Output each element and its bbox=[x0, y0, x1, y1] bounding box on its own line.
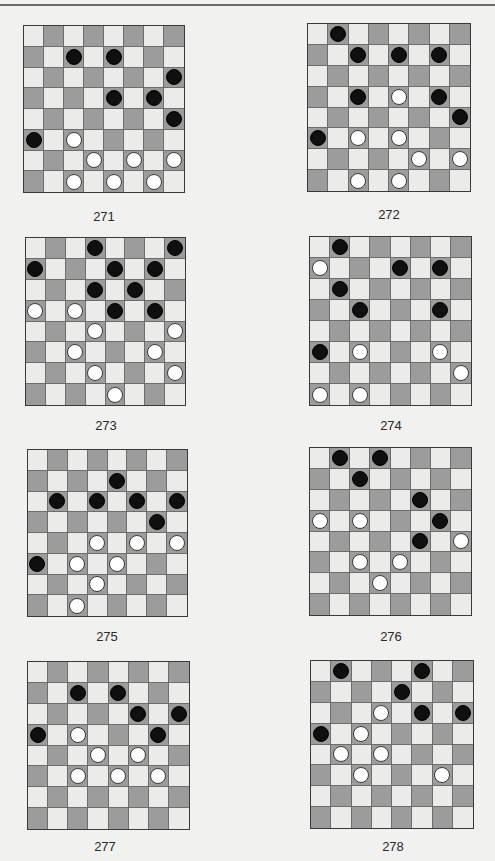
board-square-r4c0[interactable] bbox=[310, 321, 330, 342]
board-square-r0c6[interactable] bbox=[431, 448, 451, 469]
board-square-r6c5[interactable] bbox=[411, 573, 431, 594]
board-square-r6c3[interactable] bbox=[370, 573, 390, 594]
board-square-r7c7[interactable] bbox=[451, 594, 471, 615]
board-square-r7c7[interactable] bbox=[450, 170, 470, 191]
black-checker-piece-icon[interactable] bbox=[452, 109, 468, 125]
board-square-r7c1[interactable] bbox=[328, 170, 348, 191]
board-square-r2c0[interactable] bbox=[28, 704, 48, 725]
white-checker-piece-icon[interactable] bbox=[350, 173, 366, 189]
board-square-r3c7[interactable] bbox=[453, 724, 473, 745]
board-square-r4c3[interactable] bbox=[88, 746, 108, 767]
board-square-r6c4[interactable] bbox=[108, 575, 128, 596]
board-square-r1c0[interactable] bbox=[26, 259, 46, 280]
board-square-r2c4[interactable] bbox=[109, 704, 129, 725]
board-square-r4c5[interactable] bbox=[124, 109, 144, 130]
board-square-r3c7[interactable] bbox=[451, 300, 471, 321]
white-checker-piece-icon[interactable] bbox=[453, 365, 469, 381]
board-square-r5c6[interactable] bbox=[149, 766, 169, 787]
board-square-r4c3[interactable] bbox=[370, 321, 390, 342]
board-square-r3c7[interactable] bbox=[451, 511, 471, 532]
board-square-r1c6[interactable] bbox=[431, 469, 451, 490]
board-square-r0c5[interactable] bbox=[124, 26, 144, 47]
board-square-r3c2[interactable] bbox=[352, 724, 372, 745]
board-square-r0c0[interactable] bbox=[28, 450, 48, 471]
board-square-r4c0[interactable] bbox=[24, 109, 44, 130]
board-square-r4c7[interactable] bbox=[450, 108, 470, 129]
white-checker-piece-icon[interactable] bbox=[169, 535, 185, 551]
board-square-r3c3[interactable] bbox=[86, 301, 106, 322]
board-square-r0c2[interactable] bbox=[352, 661, 372, 682]
board-square-r7c3[interactable] bbox=[88, 595, 108, 616]
board-square-r0c3[interactable] bbox=[88, 450, 108, 471]
board-square-r5c6[interactable] bbox=[144, 130, 164, 151]
board-square-r1c6[interactable] bbox=[144, 47, 164, 68]
board-square-r3c4[interactable] bbox=[104, 88, 124, 109]
board-square-r1c2[interactable] bbox=[64, 47, 84, 68]
board-square-r7c1[interactable] bbox=[48, 808, 68, 829]
board-square-r3c0[interactable] bbox=[26, 301, 46, 322]
white-checker-piece-icon[interactable] bbox=[391, 130, 407, 146]
board-square-r5c0[interactable] bbox=[311, 765, 331, 786]
board-square-r0c0[interactable] bbox=[310, 448, 330, 469]
board-square-r0c1[interactable] bbox=[328, 24, 348, 45]
board-square-r4c2[interactable] bbox=[68, 746, 88, 767]
white-checker-piece-icon[interactable] bbox=[352, 554, 368, 570]
black-checker-piece-icon[interactable] bbox=[412, 492, 428, 508]
board-square-r6c0[interactable] bbox=[310, 363, 330, 384]
board-square-r7c0[interactable] bbox=[308, 170, 328, 191]
board-square-r3c6[interactable] bbox=[149, 725, 169, 746]
white-checker-piece-icon[interactable] bbox=[89, 576, 105, 592]
board-square-r7c3[interactable] bbox=[370, 594, 390, 615]
board-square-r0c6[interactable] bbox=[431, 237, 451, 258]
board-square-r2c1[interactable] bbox=[331, 703, 351, 724]
black-checker-piece-icon[interactable] bbox=[27, 261, 43, 277]
board-square-r1c5[interactable] bbox=[412, 682, 432, 703]
board-square-r6c4[interactable] bbox=[104, 151, 124, 172]
board-square-r1c2[interactable] bbox=[68, 471, 88, 492]
black-checker-piece-icon[interactable] bbox=[26, 132, 42, 148]
board-square-r6c6[interactable] bbox=[430, 149, 450, 170]
board-square-r4c0[interactable] bbox=[310, 532, 330, 553]
board-square-r2c4[interactable] bbox=[391, 279, 411, 300]
board-square-r2c2[interactable] bbox=[350, 490, 370, 511]
black-checker-piece-icon[interactable] bbox=[147, 261, 163, 277]
black-checker-piece-icon[interactable] bbox=[150, 727, 166, 743]
board-square-r2c7[interactable] bbox=[169, 704, 189, 725]
board-square-r0c7[interactable] bbox=[164, 26, 184, 47]
board-square-r7c7[interactable] bbox=[451, 384, 471, 405]
board-square-r5c6[interactable] bbox=[431, 342, 451, 363]
board-square-r0c6[interactable] bbox=[149, 662, 169, 683]
black-checker-piece-icon[interactable] bbox=[89, 493, 105, 509]
board-square-r0c6[interactable] bbox=[430, 24, 450, 45]
board-square-r7c2[interactable] bbox=[349, 170, 369, 191]
board-square-r6c7[interactable] bbox=[164, 151, 184, 172]
board-square-r0c3[interactable] bbox=[370, 448, 390, 469]
board-square-r0c1[interactable] bbox=[48, 662, 68, 683]
board-square-r5c6[interactable] bbox=[433, 765, 453, 786]
board-square-r7c4[interactable] bbox=[108, 595, 128, 616]
white-checker-piece-icon[interactable] bbox=[70, 727, 86, 743]
board-square-r1c0[interactable] bbox=[24, 47, 44, 68]
board-square-r0c0[interactable] bbox=[308, 24, 328, 45]
board-square-r1c3[interactable] bbox=[369, 45, 389, 66]
board-square-r2c0[interactable] bbox=[308, 66, 328, 87]
board-square-r5c7[interactable] bbox=[450, 128, 470, 149]
board-square-r4c6[interactable] bbox=[431, 532, 451, 553]
board-square-r6c0[interactable] bbox=[24, 151, 44, 172]
board-square-r7c4[interactable] bbox=[104, 171, 124, 192]
board-square-r1c7[interactable] bbox=[451, 469, 471, 490]
white-checker-piece-icon[interactable] bbox=[150, 768, 166, 784]
board-square-r6c4[interactable] bbox=[392, 786, 412, 807]
black-checker-piece-icon[interactable] bbox=[49, 493, 65, 509]
board-square-r6c3[interactable] bbox=[372, 786, 392, 807]
board-square-r1c2[interactable] bbox=[350, 258, 370, 279]
board-square-r1c7[interactable] bbox=[167, 471, 187, 492]
board-square-r1c5[interactable] bbox=[411, 258, 431, 279]
board-square-r3c4[interactable] bbox=[109, 725, 129, 746]
white-checker-piece-icon[interactable] bbox=[67, 344, 83, 360]
board-square-r5c5[interactable] bbox=[409, 128, 429, 149]
board-square-r3c2[interactable] bbox=[68, 512, 88, 533]
board-square-r5c7[interactable] bbox=[451, 552, 471, 573]
board-square-r7c5[interactable] bbox=[124, 171, 144, 192]
black-checker-piece-icon[interactable] bbox=[29, 556, 45, 572]
